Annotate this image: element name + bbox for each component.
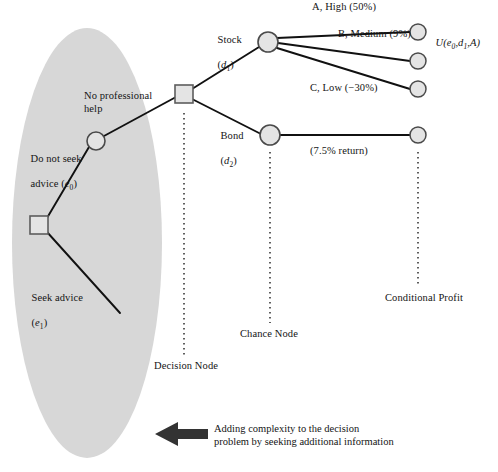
label-outcome-bond-return: (7.5% return) [310, 145, 368, 158]
label-outcome-a-high: A, High (50%) [312, 1, 376, 14]
label-outcome-b-medium: B, Medium (9%) [338, 28, 411, 41]
label-do-not-seek-line1: Do not seek [30, 153, 81, 164]
label-do-not-seek-advice: Do not seek advice (e0) [25, 140, 82, 194]
label-seek-advice: Seek advice (e1) [26, 279, 83, 333]
node-terminal-b-medium[interactable] [410, 53, 426, 69]
symbol-U: U [435, 37, 443, 48]
node-chance-no-professional-help[interactable] [87, 132, 105, 150]
symbol-d1-sub: 1 [226, 64, 230, 73]
symbol-e1-sub: 1 [40, 322, 44, 331]
symbol-u-d1-sub: 1 [463, 42, 467, 51]
label-stock: Stock (d1) [212, 21, 242, 75]
footer-caption: Adding complexity to the decision proble… [214, 422, 484, 448]
edge-outcome-b-medium [278, 43, 410, 61]
symbol-u-e0-sub: 0 [452, 42, 456, 51]
node-terminal-a-high[interactable] [410, 24, 426, 40]
label-seek-advice-line1: Seek advice [31, 292, 83, 303]
label-utility-e0-d1-a: U(e0,d1,A) [430, 24, 480, 53]
symbol-e0-sub: 0 [70, 183, 74, 192]
node-decision-square-d[interactable] [175, 85, 193, 103]
label-bond-sub: (d2) [220, 155, 236, 166]
node-terminal-c-low[interactable] [410, 81, 426, 97]
label-stock-text: Stock [217, 34, 241, 45]
label-advice-word: advice ( [30, 178, 64, 189]
node-terminal-bond-return[interactable] [410, 127, 426, 143]
label-decision-node: Decision Node [154, 360, 218, 373]
label-stock-sub: (d1) [217, 59, 233, 70]
left-arrow-icon [155, 422, 208, 446]
node-chance-bond[interactable] [260, 125, 280, 145]
label-outcome-c-low: C, Low (−30%) [310, 82, 378, 95]
node-chance-stock[interactable] [258, 32, 278, 52]
label-do-not-seek-line2: advice (e0) [30, 178, 77, 189]
node-root-decision-square[interactable] [30, 216, 48, 234]
label-conditional-profit: Conditional Profit [385, 292, 463, 305]
symbol-d2-sub: 2 [229, 160, 233, 169]
label-chance-node: Chance Node [240, 328, 298, 341]
label-bond-text: Bond [220, 130, 243, 141]
label-seek-advice-line2: (e1) [31, 317, 47, 328]
label-bond: Bond (d2) [215, 117, 244, 171]
label-no-professional-help-text: No professional help [84, 90, 152, 114]
label-no-professional-help: No professional help [84, 90, 152, 115]
decision-tree-canvas [0, 0, 498, 472]
